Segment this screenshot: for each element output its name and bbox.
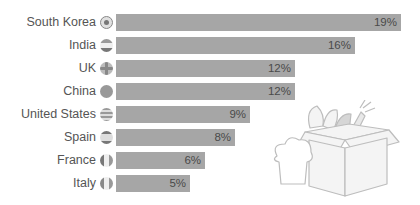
chart-row: South Korea 19% xyxy=(0,14,420,31)
bar: 12% xyxy=(116,83,295,100)
value-label: 5% xyxy=(169,175,186,192)
south-korea-flag-icon xyxy=(100,16,113,29)
india-flag-icon xyxy=(100,39,113,52)
category-label: France xyxy=(57,152,96,169)
uk-flag-icon xyxy=(100,62,113,75)
category-label: Italy xyxy=(73,175,96,192)
value-label: 12% xyxy=(268,83,291,100)
category-label: Spain xyxy=(64,129,96,146)
vegetable-box-illustration-icon xyxy=(265,100,410,200)
category-label: United States xyxy=(21,106,96,123)
chart-row: UK 12% xyxy=(0,60,420,77)
france-flag-icon xyxy=(100,154,113,167)
value-label: 19% xyxy=(374,14,397,31)
bar: 16% xyxy=(116,37,355,54)
bar: 8% xyxy=(116,129,235,146)
value-label: 9% xyxy=(229,106,246,123)
value-label: 16% xyxy=(328,37,351,54)
italy-flag-icon xyxy=(100,177,113,190)
bar: 5% xyxy=(116,175,190,192)
category-label: South Korea xyxy=(27,14,97,31)
spain-flag-icon xyxy=(100,131,113,144)
china-flag-icon xyxy=(100,85,113,98)
category-label: China xyxy=(63,83,96,100)
category-label: UK xyxy=(79,60,96,77)
bar: 19% xyxy=(116,14,401,31)
bar: 6% xyxy=(116,152,205,169)
category-label: India xyxy=(69,37,96,54)
chart-row: China 12% xyxy=(0,83,420,100)
value-label: 12% xyxy=(268,60,291,77)
value-label: 6% xyxy=(184,152,201,169)
bar: 12% xyxy=(116,60,295,77)
value-label: 8% xyxy=(214,129,231,146)
us-flag-icon xyxy=(100,108,113,121)
bar: 9% xyxy=(116,106,250,123)
chart-row: India 16% xyxy=(0,37,420,54)
